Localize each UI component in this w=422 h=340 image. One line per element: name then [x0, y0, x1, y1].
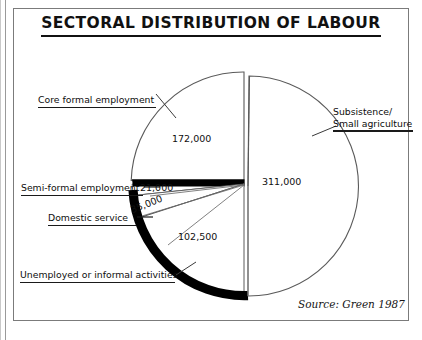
callout-domestic-service-underline — [48, 225, 136, 227]
value-unemployed-informal-activities: 102,500 — [178, 231, 217, 242]
pie-chart — [0, 0, 422, 340]
callout-semi-formal-employment-label: Semi-formal employment — [21, 182, 143, 194]
slice-core-formal-employment — [131, 72, 244, 184]
callout-semi-formal-employment: Semi-formal employment — [21, 182, 143, 196]
callout-subsistence-line1: Subsistence/ — [333, 106, 413, 118]
callout-subsistence-small-agriculture: Subsistence/ Small agriculture — [333, 106, 413, 132]
value-semi-formal-employment: 21,000 — [140, 182, 173, 193]
callout-unemployed-informal-activities-label: Unemployed or informal activities — [20, 269, 178, 281]
callout-core-formal-employment-underline — [38, 107, 156, 109]
callout-semi-formal-employment-underline — [21, 195, 143, 197]
callout-domestic-service-label: Domestic service — [48, 212, 136, 224]
callout-unemployed-informal-activities: Unemployed or informal activities — [20, 269, 178, 283]
callout-core-formal-employment-label: Core formal employment — [38, 94, 156, 106]
source-note: Source: Green 1987 — [298, 298, 405, 310]
callout-core-formal-employment: Core formal employment — [38, 94, 156, 108]
callout-subsistence-underline — [333, 130, 413, 132]
chart-page: SECTORAL DISTRIBUTION OF LABOUR — [0, 0, 422, 340]
value-core-formal-employment: 172,000 — [172, 133, 211, 144]
callout-unemployed-informal-activities-underline — [20, 282, 175, 284]
value-subsistence-small-agriculture: 311,000 — [262, 176, 301, 187]
callout-domestic-service: Domestic service — [48, 212, 136, 226]
callout-subsistence-line2: Small agriculture — [333, 118, 413, 130]
